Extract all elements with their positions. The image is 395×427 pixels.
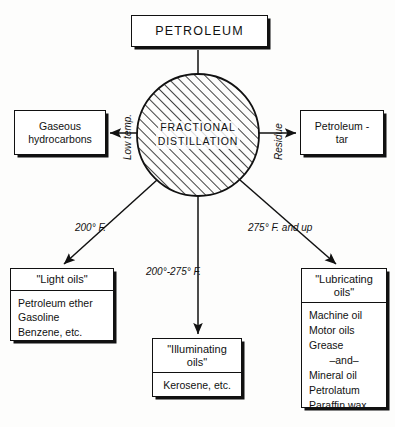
list-item: Mineral oil (309, 368, 379, 383)
list-item: Motor oils (309, 323, 379, 338)
lubricating-caption-line-2: oils" (315, 286, 373, 299)
fractional-distillation-label: FRACTIONAL DISTILLATION (137, 74, 259, 196)
list-item: Gasoline (18, 310, 106, 324)
node-gaseous-hydrocarbons: Gaseous hydrocarbons (14, 110, 106, 155)
fractional-distillation-node: FRACTIONAL DISTILLATION (137, 74, 259, 196)
distillation-line-1: FRACTIONAL (158, 121, 238, 135)
distillation-line-2: DISTILLATION (156, 135, 241, 149)
tar-line-2: tar (304, 133, 380, 145)
diagram-canvas: FRACTIONAL DISTILLATION PETROLEUM Gaseou… (0, 0, 395, 427)
list-item: Petroleum ether (18, 296, 106, 310)
edge-label-200-275f: 200°-275° F. (146, 266, 201, 277)
illuminating-caption-line-1: "Illuminating (167, 343, 227, 356)
list-item: Paraffin wax (309, 398, 379, 413)
edge-label-residue: Residue (273, 123, 284, 160)
tar-line-1: Petroleum - (304, 120, 380, 132)
node-lubricating-oils: "Lubricating oils" Machine oil Motor oil… (301, 268, 387, 408)
tar-label: Petroleum - tar (301, 116, 383, 148)
gaseous-label: Gaseous hydrocarbons (15, 116, 105, 148)
node-illuminating-oils: "Illuminating oils" Kerosene, etc. (152, 338, 242, 397)
light-oils-caption: "Light oils" (11, 269, 113, 290)
lubricating-oils-caption: "Lubricating oils" (302, 269, 386, 302)
node-petroleum-tar: Petroleum - tar (300, 110, 384, 155)
edge-label-200f: 200° F. (75, 222, 106, 233)
lubricating-oils-items: Machine oil Motor oils Grease –and– Mine… (302, 302, 386, 418)
node-petroleum: PETROLEUM (131, 15, 268, 47)
illuminating-oils-items: Kerosene, etc. (153, 372, 241, 397)
list-item: Kerosene, etc. (157, 378, 237, 392)
illuminating-caption-line-2: oils" (167, 356, 227, 369)
lubricating-caption-line-1: "Lubricating (315, 273, 373, 286)
gaseous-line-1: Gaseous (18, 120, 102, 132)
edge-label-275f-and-up: 275° F. and up (248, 222, 312, 233)
list-item: Benzene, etc. (18, 325, 106, 339)
petroleum-label: PETROLEUM (132, 20, 267, 42)
node-light-oils: "Light oils" Petroleum ether Gasoline Be… (10, 268, 114, 341)
edge-label-low-temp: Low temp. (122, 114, 133, 160)
list-item: Machine oil (309, 308, 379, 323)
list-item: Grease (309, 338, 379, 353)
list-item: –and– (309, 353, 379, 368)
gaseous-line-2: hydrocarbons (18, 133, 102, 145)
list-item: Petrolatum (309, 383, 379, 398)
light-oils-items: Petroleum ether Gasoline Benzene, etc. (11, 290, 113, 345)
illuminating-oils-caption: "Illuminating oils" (153, 339, 241, 372)
